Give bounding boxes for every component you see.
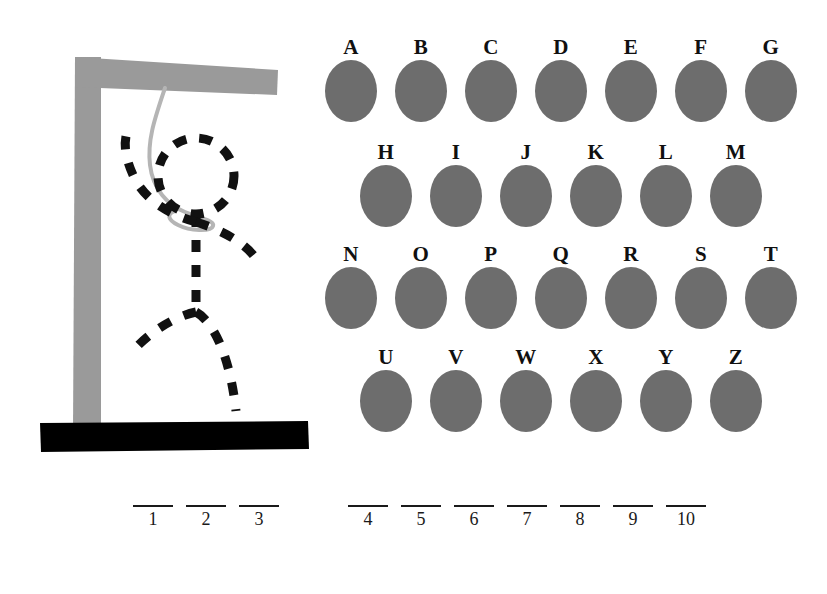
letter-disc-g[interactable]	[745, 60, 797, 122]
letter-label-v: V	[430, 345, 482, 369]
letter-label-b: B	[395, 35, 447, 59]
letter-label-n: N	[325, 242, 377, 266]
blank-slot-9[interactable]: 9	[613, 505, 653, 530]
blank-index-9: 9	[613, 508, 653, 530]
letter-label-x: X	[570, 345, 622, 369]
letter-row-4: U V W X Y Z	[360, 345, 780, 445]
letter-key-m[interactable]: M	[710, 140, 780, 240]
blank-slot-8[interactable]: 8	[560, 505, 600, 530]
letter-disc-m[interactable]	[710, 165, 762, 227]
letter-disc-t[interactable]	[745, 267, 797, 329]
letter-key-j[interactable]: J	[500, 140, 570, 240]
letter-disc-q[interactable]	[535, 267, 587, 329]
letter-disc-r[interactable]	[605, 267, 657, 329]
blank-slot-3[interactable]: 3	[239, 505, 279, 530]
blank-index-6: 6	[454, 508, 494, 530]
letter-key-z[interactable]: Z	[710, 345, 780, 445]
letter-label-j: J	[500, 140, 552, 164]
letter-disc-o[interactable]	[395, 267, 447, 329]
letter-label-u: U	[360, 345, 412, 369]
letter-disc-h[interactable]	[360, 165, 412, 227]
blank-slot-7[interactable]: 7	[507, 505, 547, 530]
letter-key-i[interactable]: I	[430, 140, 500, 240]
hangman-figure	[0, 0, 330, 480]
letter-key-o[interactable]: O	[395, 242, 465, 342]
letter-label-w: W	[500, 345, 552, 369]
letter-row-3: N O P Q R S T	[325, 242, 815, 342]
letter-label-k: K	[570, 140, 622, 164]
letter-key-s[interactable]: S	[675, 242, 745, 342]
letter-key-f[interactable]: F	[675, 35, 745, 135]
letter-key-x[interactable]: X	[570, 345, 640, 445]
letter-disc-j[interactable]	[500, 165, 552, 227]
letter-disc-y[interactable]	[640, 370, 692, 432]
blank-line-8	[560, 505, 600, 507]
answer-blanks: 1 2 3 4 5 6	[0, 505, 827, 575]
letter-key-e[interactable]: E	[605, 35, 675, 135]
letter-key-r[interactable]: R	[605, 242, 675, 342]
letter-key-c[interactable]: C	[465, 35, 535, 135]
letter-key-p[interactable]: P	[465, 242, 535, 342]
letter-disc-a[interactable]	[325, 60, 377, 122]
letter-label-z: Z	[710, 345, 762, 369]
blank-slot-10[interactable]: 10	[666, 505, 706, 530]
letter-disc-w[interactable]	[500, 370, 552, 432]
letter-key-n[interactable]: N	[325, 242, 395, 342]
letter-key-y[interactable]: Y	[640, 345, 710, 445]
blank-index-8: 8	[560, 508, 600, 530]
letter-disc-d[interactable]	[535, 60, 587, 122]
letter-label-s: S	[675, 242, 727, 266]
letter-disc-l[interactable]	[640, 165, 692, 227]
letter-key-u[interactable]: U	[360, 345, 430, 445]
gallows-panel	[0, 0, 330, 480]
blank-line-4	[348, 505, 388, 507]
blank-index-10: 10	[666, 508, 706, 530]
letter-label-c: C	[465, 35, 517, 59]
letter-key-t[interactable]: T	[745, 242, 815, 342]
letter-key-k[interactable]: K	[570, 140, 640, 240]
letter-disc-v[interactable]	[430, 370, 482, 432]
letter-disc-b[interactable]	[395, 60, 447, 122]
letter-label-m: M	[710, 140, 762, 164]
letter-label-t: T	[745, 242, 797, 266]
letter-label-p: P	[465, 242, 517, 266]
blank-index-5: 5	[401, 508, 441, 530]
blank-slot-2[interactable]: 2	[186, 505, 226, 530]
letter-disc-s[interactable]	[675, 267, 727, 329]
letter-key-b[interactable]: B	[395, 35, 465, 135]
letter-key-h[interactable]: H	[360, 140, 430, 240]
letter-disc-e[interactable]	[605, 60, 657, 122]
letter-key-q[interactable]: Q	[535, 242, 605, 342]
letter-label-r: R	[605, 242, 657, 266]
blank-slot-5[interactable]: 5	[401, 505, 441, 530]
letter-key-d[interactable]: D	[535, 35, 605, 135]
letter-label-f: F	[675, 35, 727, 59]
letter-disc-i[interactable]	[430, 165, 482, 227]
letter-label-g: G	[745, 35, 797, 59]
blank-line-7	[507, 505, 547, 507]
letter-label-o: O	[395, 242, 447, 266]
letter-disc-u[interactable]	[360, 370, 412, 432]
letter-disc-z[interactable]	[710, 370, 762, 432]
blank-line-9	[613, 505, 653, 507]
blank-slot-4[interactable]: 4	[348, 505, 388, 530]
letter-disc-c[interactable]	[465, 60, 517, 122]
letter-label-y: Y	[640, 345, 692, 369]
letter-disc-k[interactable]	[570, 165, 622, 227]
letter-key-a[interactable]: A	[325, 35, 395, 135]
letter-key-g[interactable]: G	[745, 35, 815, 135]
blank-index-7: 7	[507, 508, 547, 530]
letter-disc-x[interactable]	[570, 370, 622, 432]
letter-disc-f[interactable]	[675, 60, 727, 122]
letter-label-e: E	[605, 35, 657, 59]
letter-disc-p[interactable]	[465, 267, 517, 329]
blank-slot-6[interactable]: 6	[454, 505, 494, 530]
letter-key-l[interactable]: L	[640, 140, 710, 240]
blank-index-3: 3	[239, 508, 279, 530]
letter-key-v[interactable]: V	[430, 345, 500, 445]
letter-key-w[interactable]: W	[500, 345, 570, 445]
letter-disc-n[interactable]	[325, 267, 377, 329]
blank-slot-1[interactable]: 1	[133, 505, 173, 530]
blank-line-2	[186, 505, 226, 507]
letter-label-h: H	[360, 140, 412, 164]
